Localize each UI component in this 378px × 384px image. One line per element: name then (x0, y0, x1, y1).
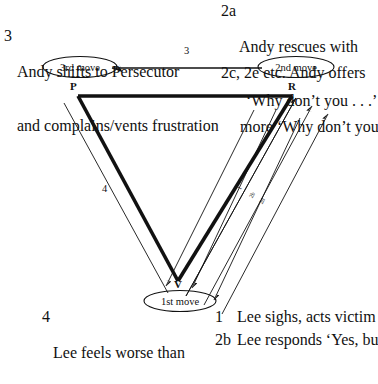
annotation-bottom-left-line-1: Lee feels worse than (53, 344, 192, 362)
annotation-bottom-left-body: Lee feels worse than at the start (53, 308, 192, 384)
annotation-top-right-2-body: 2c, 2e etc. Andy offers more ‘Why don’t … (221, 28, 378, 172)
diagram-canvas: 3rd move 2nd move 1st move P R V 3 4 1 2… (0, 0, 378, 384)
annotation-bottom-left-index: 4 (42, 308, 53, 384)
annotation-bottom-right-3-body: 2d 2f, etc. Lee continues to ‘Yes, but .… (215, 355, 377, 384)
annotation-top-left-line-2: and complains/vents frustration (17, 117, 219, 135)
annotation-bottom-left: 4 Lee feels worse than at the start (42, 308, 192, 384)
annotation-bottom-right-1: 1 Lee sighs, acts victim (215, 308, 375, 326)
label-first-move: 1st move (161, 296, 200, 307)
annotation-bottom-right-1-body: Lee sighs, acts victim (237, 308, 376, 326)
annotation-top-right-2: 2c, 2e etc. Andy offers more ‘Why don’t … (221, 28, 377, 172)
annotation-top-left: 3 Andy shifts to Persecutor and complain… (4, 27, 199, 171)
edge-label-four: 4 (102, 183, 107, 194)
annotation-bottom-right-3: 2d 2f, etc. Lee continues to ‘Yes, but .… (215, 355, 377, 384)
annotation-top-left-index: 3 (4, 27, 17, 171)
annotation-top-left-line-1: Andy shifts to Persecutor (17, 63, 219, 81)
annotation-top-left-body: Andy shifts to Persecutor and complains/… (17, 27, 219, 171)
annotation-top-right-2-line-1: 2c, 2e etc. Andy offers (221, 64, 378, 82)
annotation-top-right-2-line-2: more ‘Why don’t you . . .’ (221, 118, 378, 136)
annotation-bottom-right-1-index: 1 (215, 308, 237, 326)
vertex-label-v: V (174, 278, 182, 290)
annotation-bottom-right-2-body: Lee responds ‘Yes, but . . .’ (237, 331, 378, 349)
annotation-bottom-right-2: 2b Lee responds ‘Yes, but . . .’ (215, 331, 377, 349)
annotation-bottom-right-2-index: 2b (215, 331, 237, 349)
